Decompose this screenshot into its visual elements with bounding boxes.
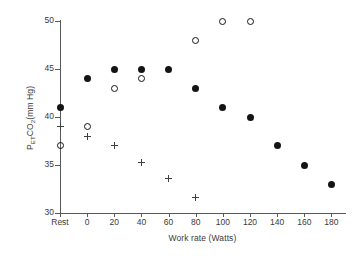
y-axis-tick-label-text: 40 [34, 112, 54, 121]
y-axis-title-base1: P [25, 144, 35, 150]
chart-figure: PETCO2(mm Hg) Work rate (Watts) 30354045… [0, 0, 357, 259]
y-axis-tick-label: 40 [32, 112, 54, 122]
plot-area [60, 21, 345, 213]
y-axis-tick-label-text: 35 [34, 160, 54, 169]
y-axis-tick-label-text: 50 [34, 16, 54, 25]
y-axis-tick-label: 50 [32, 16, 54, 26]
x-axis-line [60, 213, 346, 214]
y-axis-tick-label-text: 45 [34, 64, 54, 73]
y-axis-tick-label-text: 30 [34, 208, 54, 217]
y-axis-tick-label: 35 [32, 160, 54, 170]
x-axis-title: Work rate (Watts) [60, 233, 345, 243]
y-axis-title-sub1: ET [29, 136, 36, 144]
y-axis-title-base2: CO [25, 123, 35, 136]
y-axis-tick-label: 45 [32, 64, 54, 74]
x-axis-tick-label: 180 [311, 218, 351, 227]
